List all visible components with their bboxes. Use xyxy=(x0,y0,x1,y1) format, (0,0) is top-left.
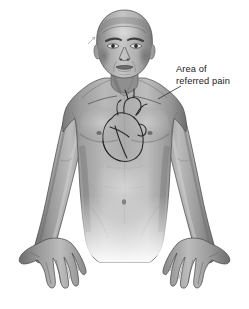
temple-tick-mark xyxy=(88,37,95,44)
referred-pain-annotation: Area of referred pain xyxy=(176,64,230,87)
mouth xyxy=(116,66,133,70)
left-pupil xyxy=(134,44,138,48)
left-nostril xyxy=(127,59,130,61)
left-hand-group xyxy=(163,238,230,288)
right-nostril xyxy=(120,59,123,61)
head-group xyxy=(94,10,155,78)
illustration-canvas: Area of referred pain xyxy=(0,0,249,309)
aorta-arch xyxy=(124,97,141,115)
anatomy-figure xyxy=(0,0,249,309)
annotation-line-1: Area of xyxy=(176,64,230,76)
right-hand-group xyxy=(19,238,86,288)
right-pupil xyxy=(111,44,115,48)
annotation-line-2: referred pain xyxy=(176,76,230,88)
